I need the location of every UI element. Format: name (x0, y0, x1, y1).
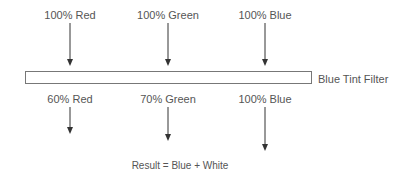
output-label-green: 70% Green (140, 93, 196, 105)
input-arrow-blue (262, 23, 268, 66)
input-label-red: 100% Red (44, 9, 95, 21)
output-arrow-green (165, 107, 171, 141)
filter-label: Blue Tint Filter (318, 73, 388, 85)
output-label-red: 60% Red (47, 93, 92, 105)
blue-tint-filter-box (26, 72, 312, 84)
diagram-canvas (0, 0, 401, 173)
result-label: Result = Blue + White (132, 160, 229, 172)
input-label-green: 100% Green (137, 9, 199, 21)
input-arrow-red (67, 23, 73, 66)
output-arrow-blue (262, 107, 268, 151)
output-arrow-red (67, 107, 73, 134)
input-arrow-green (165, 23, 171, 66)
input-label-blue: 100% Blue (238, 9, 291, 21)
output-label-blue: 100% Blue (238, 93, 291, 105)
